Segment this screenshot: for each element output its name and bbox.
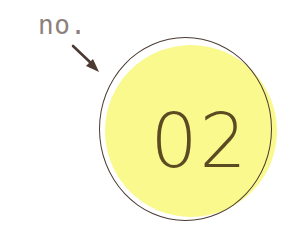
badge-number-text: 02 bbox=[113, 49, 286, 233]
illustration-canvas: no. 02 bbox=[0, 0, 288, 248]
number-badge: 02 bbox=[92, 30, 284, 236]
annotation-label-no: no. bbox=[38, 12, 86, 38]
